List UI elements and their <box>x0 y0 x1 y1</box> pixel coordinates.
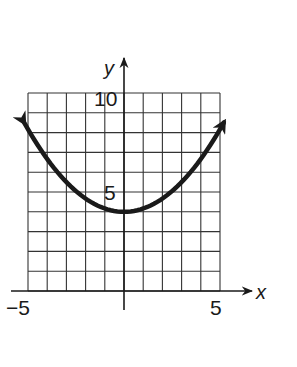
axis-labels: x y −5 5 5 10 <box>6 57 267 319</box>
x-tick-label-neg5: −5 <box>6 296 30 319</box>
x-axis-label: x <box>255 281 267 303</box>
x-tick-label-5: 5 <box>210 296 222 319</box>
parabola-chart: x y −5 5 5 10 <box>0 0 297 367</box>
y-tick-label-10: 10 <box>94 87 117 110</box>
y-tick-label-5: 5 <box>104 181 116 204</box>
y-axis-label: y <box>102 57 115 79</box>
